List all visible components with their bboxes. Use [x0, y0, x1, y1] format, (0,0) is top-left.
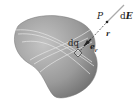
diagram-canvas — [0, 0, 140, 111]
charge-label-dq: dq — [68, 39, 79, 48]
field-label-E: E — [126, 11, 133, 21]
unit-vector-label-sub: r — [95, 47, 98, 53]
point-p-label: P — [97, 12, 103, 21]
distance-label-r: r — [106, 30, 110, 37]
field-label: dE — [120, 12, 133, 21]
point-p-dot — [106, 21, 109, 24]
unit-vector-label: er — [90, 43, 97, 53]
